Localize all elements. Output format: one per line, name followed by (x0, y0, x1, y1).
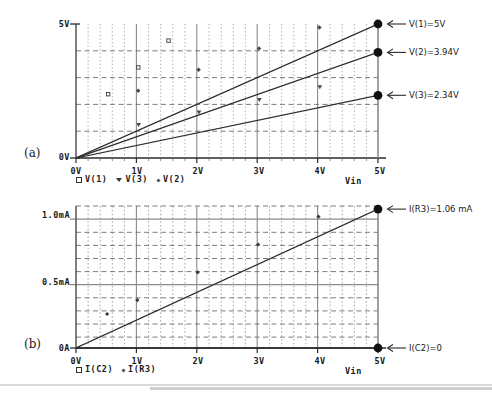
triangle-marker-icon (116, 178, 122, 182)
panel-b-minor-vgrid (88, 206, 366, 348)
panel-b-legend-label-ic2: I(C2) (85, 364, 113, 374)
endpoint-v1 (374, 20, 383, 29)
panel-b-annotation-ir3: I(R3)=1.06 mA (409, 204, 472, 214)
endpoint-ir3 (374, 205, 383, 214)
panel-a-legend-label-v3: V(3) (125, 174, 147, 184)
panel-b-traces (76, 209, 378, 348)
panel-a-legend-entry-v2: V(2) (157, 174, 185, 184)
figure-root: (a) 5V 0V 0V 1V 2V 3V 4V 5V Vin (0, 0, 492, 393)
panel-a-legend-label-v1: V(1) (85, 174, 107, 184)
panel-a-annotation-v2: V(2)=3.94V (409, 47, 459, 57)
panel-a-xticks (76, 158, 378, 163)
panel-a-traces (76, 12, 378, 158)
panel-b-annotation-ic2: I(C2)=0 (409, 343, 442, 353)
panel-b-legend-entry-ir3: I(R3) (122, 364, 156, 374)
square-marker-icon (76, 177, 82, 183)
panel-a-legend: V(1) V(3) V(2) (76, 174, 185, 184)
square-marker-icon (76, 367, 82, 373)
markers-v1 (106, 12, 200, 96)
panel-a-annotation-v3: V(3)=2.34V (409, 90, 459, 100)
panel-b-plot-area (0, 193, 492, 383)
panel-b-legend: I(C2) I(R3) (76, 364, 156, 374)
panel-a-arrows (388, 21, 407, 99)
panel-a-legend-entry-v3: V(3) (116, 174, 147, 184)
panel-b: (b) 1.0mA 0.5mA 0A 0V 1V 2V 3V 4V 5V Vin (0, 193, 492, 383)
page-bottom-rule-secondary (150, 387, 492, 390)
panel-a-annotation-v1: V(1)=5V (409, 19, 445, 29)
diamond-marker-icon (156, 178, 160, 182)
diamond-marker-icon (121, 368, 125, 372)
panel-b-legend-entry-ic2: I(C2) (76, 364, 113, 374)
panel-b-hgrid (76, 206, 378, 337)
panel-b-svg (0, 193, 492, 383)
endpoint-v2 (374, 48, 383, 57)
endpoint-v3 (374, 91, 383, 100)
endpoint-ic2 (374, 344, 383, 353)
markers-ir3 (105, 215, 321, 317)
trace-ir3 (76, 209, 378, 348)
panel-a-legend-label-v2: V(2) (163, 174, 185, 184)
trace-v1 (76, 24, 378, 158)
panel-b-major-hgrid (70, 219, 378, 285)
page-bottom-rule (0, 384, 492, 386)
panel-b-arrows (388, 206, 407, 352)
panel-a: (a) 5V 0V 0V 1V 2V 3V 4V 5V Vin (0, 0, 492, 192)
panel-b-major-vgrid (136, 206, 317, 348)
markers-v3 (136, 85, 322, 127)
panel-a-legend-entry-v1: V(1) (76, 174, 107, 184)
panel-b-legend-label-ir3: I(R3) (128, 364, 156, 374)
